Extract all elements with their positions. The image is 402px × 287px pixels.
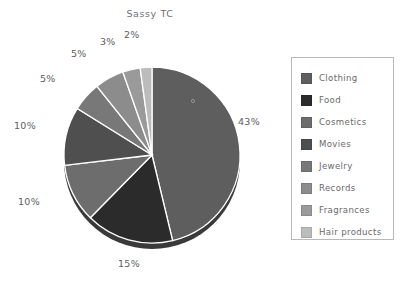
pie-percent-label: 10% [18,196,40,207]
pie-percent-label: 10% [14,120,36,131]
legend-list: ClothingFoodCosmeticsMoviesJewelryRecord… [301,67,393,243]
pie-svg [0,0,290,287]
legend-item-label: Hair products [319,227,381,237]
legend-item[interactable]: Hair products [301,221,393,243]
pie-percent-label: 15% [118,258,140,269]
legend-item[interactable]: Clothing [301,67,393,89]
pie-slice-group [64,67,240,243]
legend-color-swatch [301,95,312,106]
legend: ClothingFoodCosmeticsMoviesJewelryRecord… [291,57,394,240]
legend-color-swatch [301,205,312,216]
legend-color-swatch [301,117,312,128]
pie-chart-figure: Sassy TC 43%15%10%10%5%5%3%2% ClothingFo… [0,0,402,287]
legend-item-label: Cosmetics [319,117,367,127]
legend-item[interactable]: Food [301,89,393,111]
legend-color-swatch [301,227,312,238]
legend-item-label: Records [319,183,356,193]
legend-color-swatch [301,73,312,84]
pie-percent-label: 43% [238,116,260,127]
legend-item-label: Movies [319,139,351,149]
legend-color-swatch [301,183,312,194]
pie-plot-area: 43%15%10%10%5%5%3%2% [0,0,290,287]
legend-item[interactable]: Cosmetics [301,111,393,133]
legend-item-label: Clothing [319,73,358,83]
legend-item-label: Food [319,95,341,105]
legend-item-label: Fragrances [319,205,370,215]
legend-item[interactable]: Jewelry [301,155,393,177]
legend-item-label: Jewelry [319,161,353,171]
pie-percent-label: 3% [100,36,116,47]
legend-item[interactable]: Records [301,177,393,199]
pie-percent-label: 5% [71,48,87,59]
pie-percent-label: 2% [124,29,140,40]
legend-color-swatch [301,139,312,150]
legend-color-swatch [301,161,312,172]
legend-item[interactable]: Movies [301,133,393,155]
legend-item[interactable]: Fragrances [301,199,393,221]
pie-percent-label: 5% [40,73,56,84]
